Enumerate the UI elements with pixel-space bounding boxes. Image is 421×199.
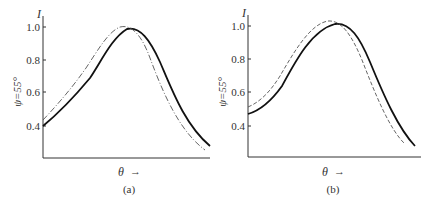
- panel-b: 1.0 0.8 0.6 0.4 I ψ=55° θ → (b): [216, 6, 421, 196]
- y-axis-title: I: [241, 6, 247, 20]
- arrow-icon: →: [130, 165, 141, 177]
- y-axis-title: I: [36, 7, 42, 21]
- y-tick-label: 1.0: [231, 20, 245, 32]
- panel-label-a: (a): [123, 183, 136, 196]
- dash-dot-curve: [43, 27, 205, 150]
- panel-a: 1.0 0.8 0.6 0.4 I ψ=55° θ → (a): [11, 7, 210, 196]
- y-tick-label: 0.6: [26, 86, 40, 98]
- psi-label: ψ=55°: [11, 77, 23, 107]
- panel-label-b: (b): [327, 183, 340, 196]
- figure: 1.0 0.8 0.6 0.4 I ψ=55° θ → (a) 1.0 0.8 …: [0, 0, 421, 199]
- y-tick-label: 1.0: [26, 21, 40, 33]
- y-tick-label: 0.6: [231, 86, 245, 98]
- y-tick-label: 0.8: [231, 53, 245, 65]
- psi-label: ψ=55°: [216, 77, 228, 107]
- y-tick-label: 0.4: [26, 120, 40, 132]
- y-tick-label: 0.4: [231, 120, 245, 132]
- arrow-icon: →: [334, 165, 345, 177]
- solid-curve: [248, 24, 415, 146]
- x-axis-title: θ: [118, 165, 124, 179]
- y-tick-label: 0.8: [26, 54, 40, 66]
- dashed-curve: [248, 21, 405, 144]
- solid-curve: [43, 29, 210, 146]
- x-axis-title: θ: [322, 165, 328, 179]
